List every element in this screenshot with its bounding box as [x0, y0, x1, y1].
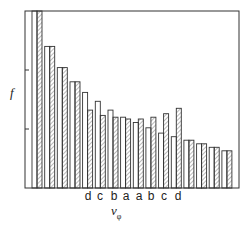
- bar-open-5: [83, 92, 88, 188]
- bar-hatched-9: [138, 119, 143, 188]
- bar-open-15: [209, 147, 214, 188]
- bars-group: [32, 11, 232, 188]
- bar-hatched-6: [100, 115, 105, 188]
- bar-open-11: [159, 133, 164, 188]
- bar-open-1: [32, 11, 37, 188]
- bar-hatched-13: [189, 140, 194, 188]
- category-label-a-left: a: [120, 189, 132, 203]
- bar-open-2: [45, 46, 50, 188]
- category-label-c-right: c: [158, 189, 170, 203]
- bar-open-16: [222, 151, 227, 188]
- bar-open-10: [146, 128, 151, 188]
- bar-hatched-2: [50, 46, 55, 188]
- bar-open-7: [108, 110, 113, 188]
- bar-hatched-5: [88, 110, 93, 188]
- bar-hatched-7: [113, 117, 118, 188]
- bar-hatched-14: [202, 144, 207, 188]
- bar-open-13: [184, 140, 189, 188]
- bar-hatched-16: [227, 151, 232, 188]
- category-label-d-left: d: [82, 189, 94, 203]
- bar-open-3: [57, 68, 62, 188]
- bar-open-4: [70, 82, 75, 188]
- bar-hatched-4: [75, 82, 80, 188]
- bar-open-9: [133, 123, 138, 189]
- bar-hatched-3: [62, 68, 67, 188]
- bar-open-6: [95, 101, 100, 188]
- bar-hatched-10: [151, 117, 156, 188]
- category-label-d-right: d: [172, 189, 184, 203]
- bar-hatched-15: [214, 147, 219, 188]
- category-label-b-right: b: [145, 189, 157, 203]
- bar-hatched-12: [176, 108, 181, 188]
- x-axis-label: vφ: [111, 203, 121, 221]
- x-axis-label-subscript: φ: [117, 212, 122, 221]
- bar-open-14: [197, 144, 202, 188]
- bar-open-12: [171, 137, 176, 188]
- bar-hatched-1: [37, 11, 42, 188]
- bar-open-8: [121, 117, 126, 188]
- category-label-b-left: b: [108, 189, 120, 203]
- y-axis-label: f: [10, 85, 14, 101]
- bar-hatched-8: [126, 119, 131, 188]
- category-label-c-left: c: [94, 189, 106, 203]
- bar-hatched-11: [164, 114, 169, 188]
- category-label-a-right: a: [133, 189, 145, 203]
